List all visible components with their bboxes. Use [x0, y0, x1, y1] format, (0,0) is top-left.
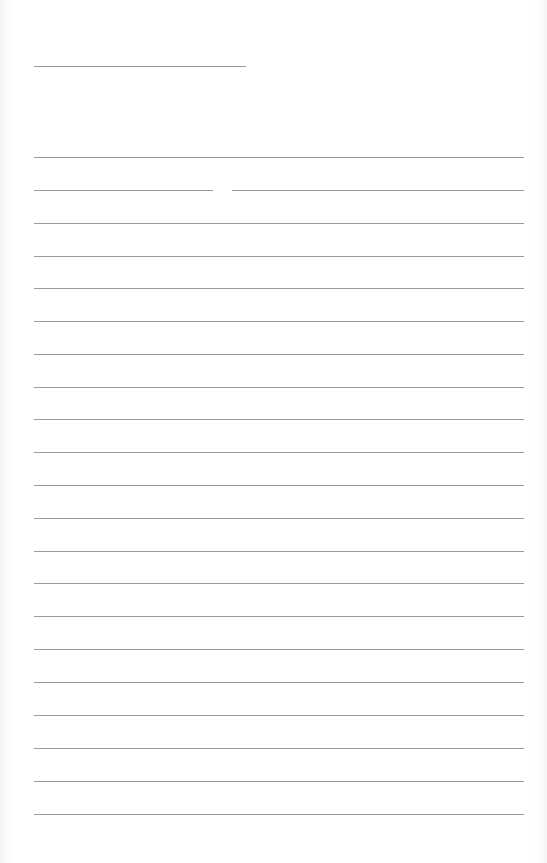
blank-lined-page — [0, 0, 547, 863]
writing-line — [34, 748, 524, 749]
writing-line — [34, 190, 213, 191]
writing-line — [34, 518, 524, 519]
writing-line — [34, 288, 524, 289]
writing-line — [34, 157, 524, 158]
writing-line — [34, 682, 524, 683]
writing-line — [34, 387, 524, 388]
writing-line — [34, 354, 524, 355]
writing-line — [34, 583, 524, 584]
writing-line — [232, 190, 524, 191]
writing-line — [34, 616, 524, 617]
writing-line — [34, 781, 524, 782]
writing-line — [34, 551, 524, 552]
writing-line — [34, 485, 524, 486]
writing-line — [34, 452, 524, 453]
writing-line — [34, 321, 524, 322]
writing-line — [34, 223, 524, 224]
writing-line — [34, 715, 524, 716]
writing-line — [34, 419, 524, 420]
writing-line — [34, 649, 524, 650]
writing-line — [34, 256, 524, 257]
writing-line — [34, 814, 524, 815]
header-line — [34, 66, 246, 67]
